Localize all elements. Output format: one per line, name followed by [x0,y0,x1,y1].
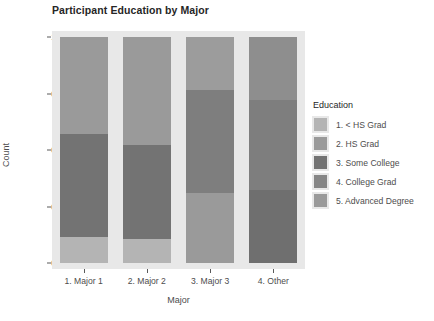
x-tick-label-1: 2. Major 2 [128,276,166,286]
legend-swatch-icon [312,154,329,171]
x-tick-label-0: 1. Major 1 [64,276,102,286]
bar-segment[interactable] [186,37,234,90]
legend-item[interactable]: 4. College Grad [312,172,432,191]
bar-slot [242,37,305,263]
stacked-bar[interactable] [60,37,108,263]
legend-title: Education [312,100,432,110]
plot-panel [52,31,305,269]
x-tick-label-3: 4. Other [258,276,289,286]
legend-swatch-icon [312,116,329,133]
x-axis-title: Major [52,295,305,305]
bar-segment[interactable] [123,239,171,263]
legend-items: 1. < HS Grad2. HS Grad3. Some College4. … [312,115,432,210]
x-tick-label-2: 3. Major 3 [191,276,229,286]
legend-item[interactable]: 1. < HS Grad [312,115,432,134]
stacked-bar[interactable] [186,37,234,263]
y-tick-mark-3 [47,93,51,94]
bar-segment[interactable] [123,37,171,145]
legend-item-label: 1. < HS Grad [336,120,386,130]
y-tick-mark-4 [47,37,51,38]
legend-item-label: 5. Advanced Degree [336,196,414,206]
bar-segment[interactable] [186,90,234,193]
bar-segment[interactable] [60,37,108,134]
bar-segment[interactable] [249,100,297,189]
legend-swatch-icon [312,192,329,209]
y-axis-title: Count [1,143,11,167]
legend-item-label: 2. HS Grad [336,139,379,149]
bar-slot [115,37,178,263]
bars-area [52,37,305,263]
bar-slot [179,37,242,263]
bar-segment[interactable] [186,193,234,263]
x-tick-mark-1 [147,269,148,273]
legend-item[interactable]: 2. HS Grad [312,134,432,153]
bar-segment[interactable] [60,237,108,263]
y-tick-mark-0 [47,263,51,264]
legend-item-label: 3. Some College [336,158,400,168]
legend-item[interactable]: 5. Advanced Degree [312,191,432,210]
legend: Education 1. < HS Grad2. HS Grad3. Some … [312,100,432,210]
y-tick-mark-1 [47,206,51,207]
legend-item-label: 4. College Grad [336,177,396,187]
bar-segment[interactable] [249,37,297,100]
legend-item[interactable]: 3. Some College [312,153,432,172]
legend-swatch-icon [312,135,329,152]
bar-segment[interactable] [123,145,171,239]
x-tick-mark-0 [84,269,85,273]
stacked-bar[interactable] [249,37,297,263]
bar-segment[interactable] [249,190,297,263]
x-tick-mark-3 [273,269,274,273]
legend-swatch-icon [312,173,329,190]
bar-slot [52,37,115,263]
y-tick-mark-2 [47,150,51,151]
bar-segment[interactable] [60,134,108,237]
chart-container: Participant Education by Major Count 0.0… [0,0,434,321]
chart-title: Participant Education by Major [52,4,209,16]
x-tick-mark-2 [210,269,211,273]
stacked-bar[interactable] [123,37,171,263]
